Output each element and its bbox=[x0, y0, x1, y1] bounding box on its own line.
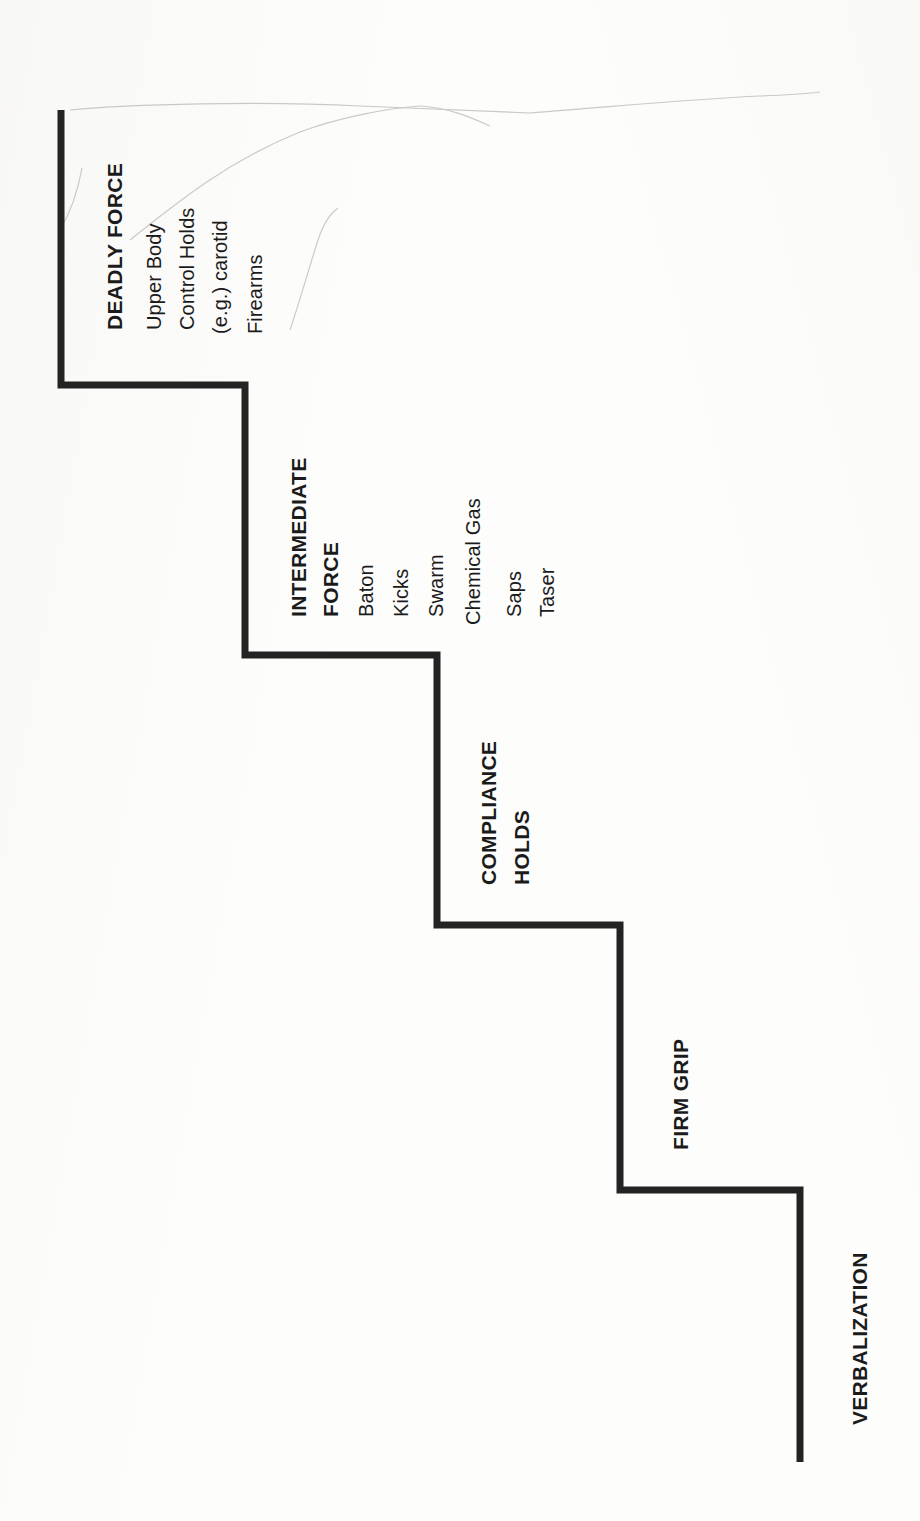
staircase-diagram bbox=[0, 0, 920, 1521]
scanned-page: DEADLY FORCE Upper Body Control Holds (e… bbox=[0, 0, 920, 1521]
tier-item-intermediate-force-6: Taser bbox=[537, 568, 558, 617]
scan-streak bbox=[70, 103, 530, 113]
tier-heading-intermediate-force-line1: INTERMEDIATE bbox=[288, 457, 310, 617]
tier-heading-deadly-force: DEADLY FORCE bbox=[104, 163, 126, 330]
tier-heading-verbalization: VERBALIZATION bbox=[849, 1252, 871, 1425]
scan-streak bbox=[290, 240, 318, 330]
tier-item-deadly-force-2: Control Holds bbox=[177, 208, 198, 330]
tier-item-intermediate-force-2: Kicks bbox=[391, 569, 412, 617]
tier-heading-compliance-holds-line1: COMPLIANCE bbox=[478, 741, 500, 885]
tier-item-intermediate-force-3: Swarm bbox=[426, 554, 447, 617]
tier-item-deadly-force-4: Firearms bbox=[245, 254, 266, 334]
tier-item-intermediate-force-1: Baton bbox=[356, 564, 377, 617]
staircase-path bbox=[61, 110, 800, 1462]
tier-item-intermediate-force-5: Saps bbox=[504, 571, 525, 617]
scan-streak bbox=[130, 106, 420, 240]
scan-streak-group bbox=[60, 92, 820, 330]
tier-heading-intermediate-force-line2: FORCE bbox=[320, 542, 342, 617]
tier-heading-firm-grip: FIRM GRIP bbox=[670, 1039, 692, 1150]
tier-item-deadly-force-1: Upper Body bbox=[144, 223, 165, 330]
tier-heading-compliance-holds-line2: HOLDS bbox=[511, 810, 533, 885]
tier-item-intermediate-force-4: Chemical Gas bbox=[463, 498, 484, 625]
tier-item-deadly-force-3: (e.g.) carotid bbox=[210, 220, 231, 334]
staircase-outline bbox=[61, 110, 800, 1462]
scan-streak bbox=[318, 208, 338, 240]
scan-streak bbox=[530, 92, 820, 113]
